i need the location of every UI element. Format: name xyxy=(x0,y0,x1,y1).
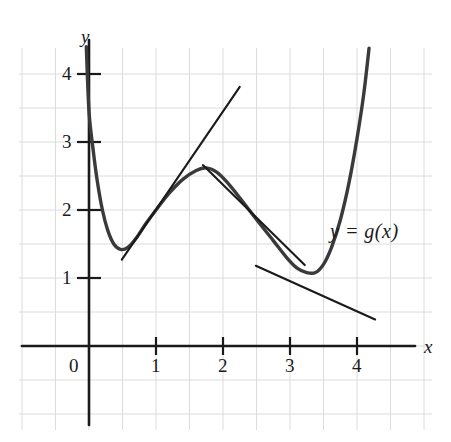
x-tick-label: 4 xyxy=(352,356,362,375)
tangent-line xyxy=(203,165,305,265)
y-tick-label: 2 xyxy=(62,200,72,219)
curve-path xyxy=(86,47,369,274)
origin-label: 0 xyxy=(69,356,79,375)
x-tick-label: 2 xyxy=(218,356,228,375)
x-tick-label: 3 xyxy=(285,356,295,375)
y-tick-label: 4 xyxy=(62,64,72,83)
tangent-lines xyxy=(122,87,375,320)
y-tick-label: 3 xyxy=(62,132,72,151)
y-tick-label: 1 xyxy=(62,268,72,287)
x-axis-label: x xyxy=(424,337,432,356)
graph-figure: x y 0 y = g(x) 12341234 xyxy=(0,0,451,442)
axis-ticks xyxy=(77,74,357,355)
y-axis-label: y xyxy=(81,27,89,46)
tangent-line xyxy=(122,87,240,260)
function-curve xyxy=(86,47,369,274)
curve-equation-label: y = g(x) xyxy=(330,221,399,241)
x-tick-label: 1 xyxy=(151,356,161,375)
